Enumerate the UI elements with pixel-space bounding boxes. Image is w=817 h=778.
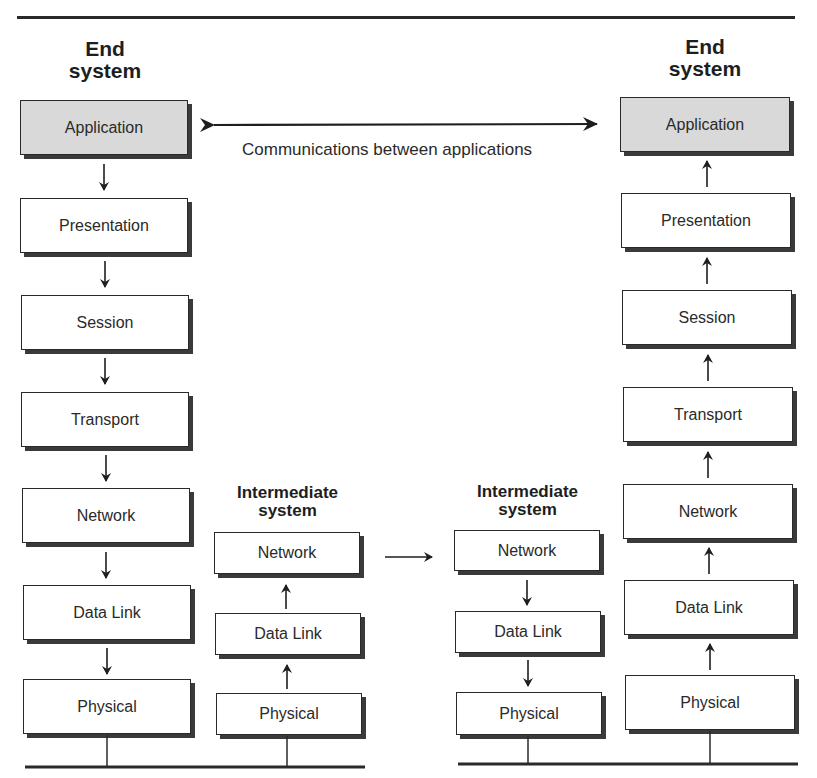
- application-communication-label: Communications between applications: [242, 140, 532, 160]
- int1-up-arrows: [286, 585, 287, 689]
- int2-down-arrows: [527, 580, 528, 686]
- left-network-bus: [25, 735, 365, 767]
- right-network-bus: [458, 731, 798, 764]
- left-down-arrows: [104, 164, 107, 674]
- application-communication-arrow: [214, 124, 597, 125]
- right-up-arrows: [707, 161, 710, 670]
- connector-layer: [0, 0, 817, 778]
